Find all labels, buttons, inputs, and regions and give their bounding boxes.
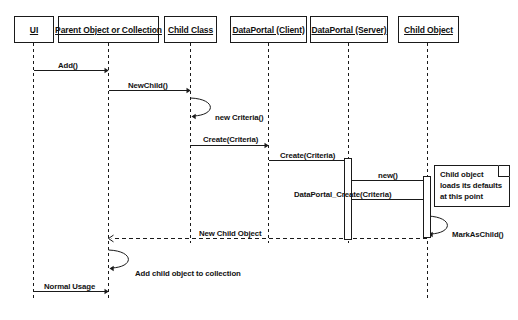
message-label-m11: Normal Usage xyxy=(44,283,95,291)
message-label-m3: new Criteria() xyxy=(215,114,263,122)
note-line: at this point xyxy=(440,191,505,202)
message-label-m10: Add child object to collection xyxy=(135,270,241,278)
participant-box-dp_client[interactable]: DataPortal (Client) xyxy=(230,16,307,43)
participant-box-ui[interactable]: UI xyxy=(14,16,54,43)
message-m10[interactable] xyxy=(109,250,129,271)
message-label-m4: Create(Criteria) xyxy=(203,136,258,144)
sequence-diagram-canvas: UIParent Object or CollectionChild Class… xyxy=(0,0,518,320)
act-dp-server xyxy=(344,158,352,240)
act-child-object xyxy=(423,176,431,238)
participant-label: DataPortal (Client) xyxy=(232,25,304,35)
participant-label: Child Class xyxy=(168,25,213,35)
arrowhead xyxy=(110,266,114,272)
participant-box-dp_server[interactable]: DataPortal (Server) xyxy=(310,16,388,43)
participant-label: UI xyxy=(30,25,38,35)
message-label-m1: Add() xyxy=(58,62,78,70)
note-child-defaults: Child objectloads its defaultsat this po… xyxy=(434,165,510,207)
self-call-path xyxy=(191,98,211,116)
participant-label: Parent Object or Collection xyxy=(55,25,162,35)
message-m9[interactable] xyxy=(109,235,428,242)
arrowhead-line-top xyxy=(109,235,114,238)
note-line: loads its defaults xyxy=(440,180,505,191)
participant-label: Child Object xyxy=(404,25,453,35)
participant-box-parent[interactable]: Parent Object or Collection xyxy=(58,16,159,43)
message-label-m5: Create(Criteria) xyxy=(280,152,335,160)
self-call-path xyxy=(109,250,129,268)
participant-box-childobject[interactable]: Child Object xyxy=(398,16,459,43)
diagram-vector-layer xyxy=(0,0,518,320)
arrowhead xyxy=(109,235,114,242)
note-fold-corner-icon xyxy=(498,165,510,177)
message-label-m8: MarkAsChild() xyxy=(452,231,504,239)
arrowhead-line-bottom xyxy=(109,239,114,242)
participant-label: DataPortal (Server) xyxy=(311,25,386,35)
message-label-m7: DataPortal_Create(Criteria) xyxy=(294,191,391,199)
arrowhead xyxy=(192,114,196,120)
message-label-m6: new() xyxy=(378,172,398,180)
participant-box-childclass[interactable]: Child Class xyxy=(164,16,217,43)
note-line: Child object xyxy=(440,169,505,180)
message-label-m2: NewChild() xyxy=(128,82,168,90)
message-label-m9: New Child Object xyxy=(199,230,262,238)
message-m3[interactable] xyxy=(191,98,211,119)
